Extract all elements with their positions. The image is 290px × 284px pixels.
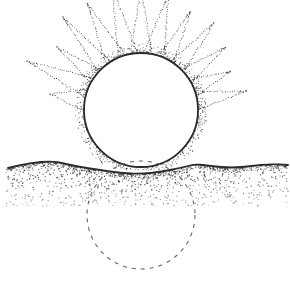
sun-disc — [84, 53, 198, 167]
sun-horizon-illustration — [0, 0, 290, 284]
